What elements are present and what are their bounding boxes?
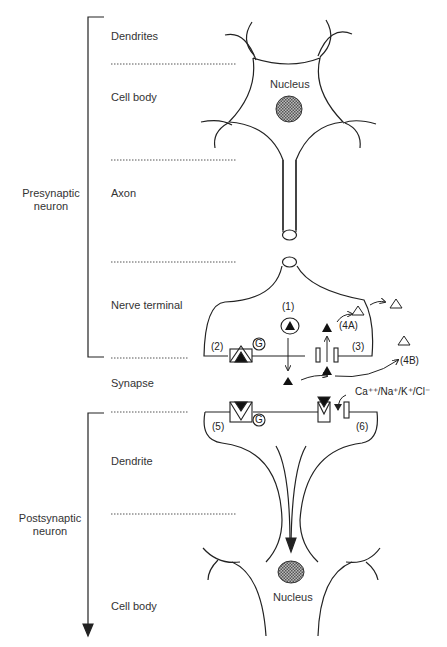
step-1-label: (1) xyxy=(282,301,294,312)
presynaptic-neuron-label: Presynaptic neuron xyxy=(16,187,86,213)
ionotropic-receptor xyxy=(318,397,349,422)
label-line: neuron xyxy=(16,200,86,213)
reuptake-transporter xyxy=(316,348,320,362)
metabolite-icon xyxy=(398,336,410,345)
synapse-diagram xyxy=(0,0,447,647)
node-of-ranvier xyxy=(283,230,297,240)
postsynaptic-nucleus xyxy=(278,561,304,583)
metabolite-icon xyxy=(390,299,402,308)
node-of-ranvier xyxy=(283,257,297,267)
presynaptic-nucleus xyxy=(276,96,302,122)
label-line: neuron xyxy=(14,525,86,538)
g-protein-label-post: G xyxy=(255,414,263,425)
step-6-label: (6) xyxy=(356,421,368,432)
metabolite-icon xyxy=(352,306,364,315)
label-line: Presynaptic xyxy=(16,187,86,200)
neurotransmitter-icon xyxy=(283,377,293,385)
neurotransmitter-icon xyxy=(322,366,332,375)
reuptake-transporter xyxy=(334,348,338,362)
g-protein-label-pre: G xyxy=(255,338,263,349)
step-4b-label: (4B) xyxy=(400,355,419,366)
label-dendrite: Dendrite xyxy=(111,455,153,467)
postsynaptic-bracket xyxy=(88,413,104,630)
step-2-label: (2) xyxy=(211,341,223,352)
presynaptic-bracket xyxy=(88,17,104,357)
step-5-label: (5) xyxy=(212,421,224,432)
label-postsynaptic-cell-body: Cell body xyxy=(111,600,157,612)
step-4a-label: (4A) xyxy=(339,320,358,331)
ion-flux-label: Ca⁺⁺/Na⁺/K⁺/Cl⁻ xyxy=(355,386,430,397)
neurotransmitter-icon xyxy=(322,323,332,332)
region-dividers xyxy=(111,64,236,514)
down-arrow-icon xyxy=(83,624,93,636)
label-dendrites: Dendrites xyxy=(111,30,158,42)
postsynaptic-neuron-label: Postsynaptic neuron xyxy=(14,512,86,538)
label-nucleus-top: Nucleus xyxy=(270,78,310,90)
label-synapse: Synapse xyxy=(111,377,154,389)
label-cell-body: Cell body xyxy=(111,91,157,103)
label-axon: Axon xyxy=(111,187,136,199)
label-nucleus-bottom: Nucleus xyxy=(273,591,313,603)
label-line: Postsynaptic xyxy=(14,512,86,525)
label-nerve-terminal: Nerve terminal xyxy=(111,299,183,311)
step-3-label: (3) xyxy=(352,341,364,352)
